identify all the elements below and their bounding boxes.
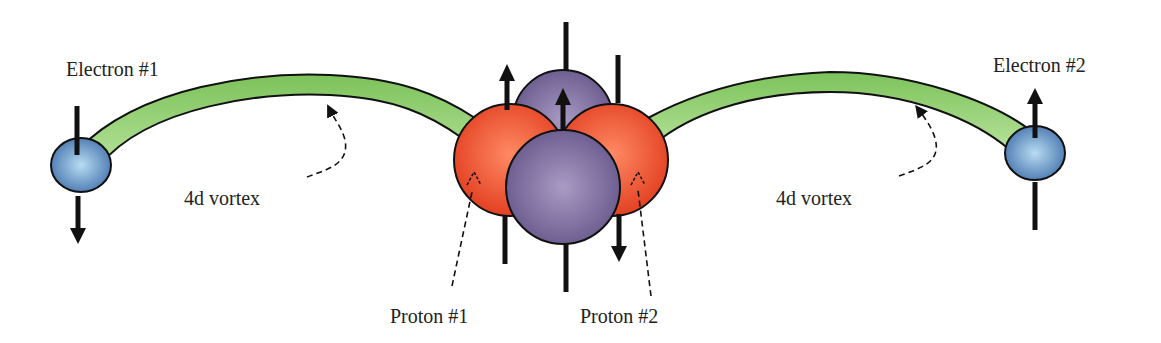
helium-atom-diagram: Electron #1 Electron #2 4d vortex 4d vor… [0,0,1161,343]
label-proton-1: Proton #1 [390,305,468,327]
label-proton-2: Proton #2 [580,305,658,327]
spin-down-arrow-icon [611,246,627,262]
pointer-vortex-left [307,110,346,177]
vortex-tube-right [648,72,1030,150]
spin-down-arrow-icon [70,228,86,244]
label-electron-1: Electron #1 [66,58,159,80]
label-electron-2: Electron #2 [993,54,1086,76]
label-vortex-left: 4d vortex [184,187,260,209]
vortex-tube-left [78,75,475,165]
electron-2 [1005,88,1065,230]
label-vortex-right: 4d vortex [776,187,852,209]
spin-up-arrow-icon [1027,88,1043,104]
pointer-vortex-right [899,110,936,176]
electron-1 [51,106,111,244]
pointer-proton-1 [452,192,472,286]
spin-up-arrow-icon [499,64,515,81]
